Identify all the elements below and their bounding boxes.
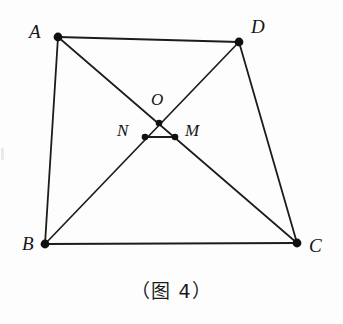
vertex-dot-O [156, 120, 163, 127]
geometry-figure: A D B C O N M （图 4） [0, 0, 343, 324]
vertex-label-B: B [22, 234, 34, 253]
segment-A-to-C-through-O-M [58, 37, 297, 243]
vertex-dot-C [293, 239, 302, 248]
segment-DC [239, 42, 297, 243]
segment-BC [45, 243, 297, 244]
vertex-dot-D [235, 38, 244, 47]
vertex-label-C: C [309, 236, 322, 255]
vertex-dot-M [172, 134, 179, 141]
segment-B-to-D-through-N-O [45, 42, 239, 244]
vertex-dot-A [54, 33, 63, 42]
vertex-label-D: D [251, 17, 265, 36]
segment-AB [45, 37, 58, 244]
vertex-label-O: O [151, 91, 163, 108]
segment-AD [58, 37, 239, 42]
figure-4-caption: （图 4） [0, 276, 343, 303]
vertex-label-M: M [185, 122, 199, 139]
vertex-label-A: A [29, 22, 41, 41]
vertex-dot-B [41, 240, 50, 249]
vertex-dot-N [142, 134, 149, 141]
vertex-label-N: N [117, 122, 128, 139]
